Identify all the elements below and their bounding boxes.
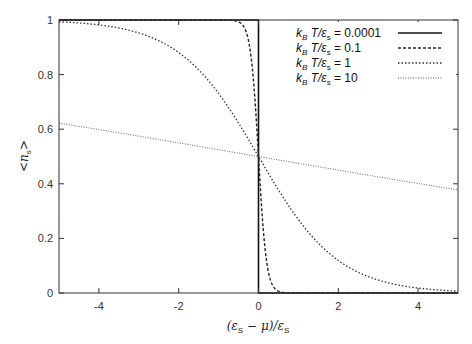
legend-label: kB T/εs = 0.0001	[296, 26, 381, 42]
x-tick-label: -2	[174, 300, 184, 312]
y-tick-label: 1	[47, 14, 53, 26]
y-tick-label: 0.6	[38, 123, 53, 135]
legend: kB T/εs = 0.0001kB T/εs = 0.1kB T/εs = 1…	[282, 22, 456, 88]
y-axis-label: <ns>	[17, 140, 33, 172]
y-tick-label: 0	[47, 287, 53, 299]
fermi-dirac-chart: -4-2024 00.20.40.60.81 kB T/εs = 0.0001k…	[0, 0, 472, 344]
x-axis-label: (εS − μ)/εS	[227, 319, 290, 335]
y-tick-label: 0.2	[38, 232, 53, 244]
x-tick-label: 4	[415, 300, 421, 312]
x-tick-label: 0	[255, 300, 261, 312]
y-tick-label: 0.8	[38, 69, 53, 81]
y-tick-label: 0.4	[38, 178, 53, 190]
x-tick-label: -4	[94, 300, 104, 312]
x-tick-label: 2	[335, 300, 341, 312]
